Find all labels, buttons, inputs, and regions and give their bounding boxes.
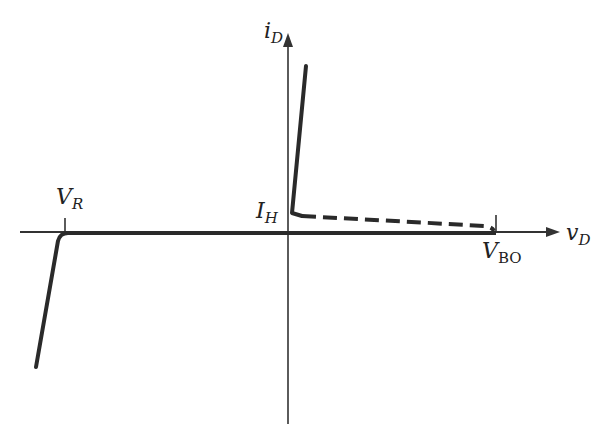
y-axis-label: iD [264,18,283,43]
reverse-breakdown-branch [36,233,68,367]
y-axis-arrow-icon [283,33,293,47]
vbo-label: VBO [482,238,522,263]
vr-label-main: V [56,184,72,209]
x-axis-label-sub: D [578,231,590,249]
ih-label-sub: H [265,209,278,227]
vr-label: VR [56,184,83,209]
x-axis-arrow-icon [546,227,560,237]
vr-label-sub: R [72,195,83,213]
ih-label-main: I [256,198,265,223]
vbo-label-sub: BO [498,249,522,267]
negative-resistance-transition [302,216,494,231]
thyristor-iv-diagram [0,0,606,433]
x-axis-label: vD [566,220,590,245]
y-axis-label-main: i [264,18,271,43]
on-state-branch [292,66,306,216]
ih-label: IH [256,198,278,223]
vbo-label-main: V [482,238,498,263]
y-axis-label-sub: D [271,29,283,47]
x-axis-label-main: v [566,220,578,245]
